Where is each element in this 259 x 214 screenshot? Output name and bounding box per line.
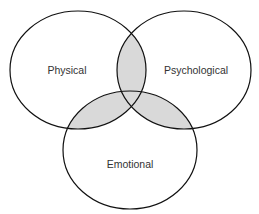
set-physical-label: Physical — [47, 64, 86, 76]
set-psychological-label: Psychological — [164, 64, 228, 76]
set-emotional-label: Emotional — [107, 158, 154, 170]
venn-diagram: Physical Psychological Emotional — [0, 0, 259, 214]
